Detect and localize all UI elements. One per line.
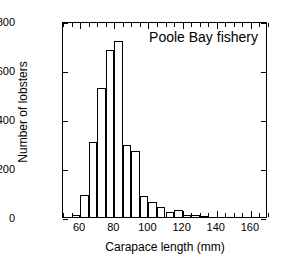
x-axis-tick — [80, 211, 81, 217]
x-axis-tick — [80, 23, 81, 29]
x-axis-tick — [131, 23, 132, 27]
x-axis-tick — [97, 213, 98, 217]
x-axis-tick — [234, 213, 235, 217]
y-axis-tick-label: 600 — [0, 65, 15, 77]
x-axis-tick — [114, 211, 115, 217]
histogram-bar — [183, 215, 192, 217]
y-axis-tick — [261, 23, 266, 24]
y-axis-tick — [63, 72, 68, 73]
y-axis-tick — [261, 219, 266, 220]
x-axis-tick — [148, 211, 149, 217]
x-axis-tick — [131, 213, 132, 217]
y-axis-tick — [63, 23, 68, 24]
x-axis-tick — [157, 213, 158, 217]
histogram-figure: Number of lobsters Poole Bay fishery Car… — [0, 0, 285, 263]
histogram-bar — [72, 215, 81, 217]
histogram-bar — [97, 88, 106, 217]
x-axis-tick — [89, 213, 90, 217]
histogram-bar — [89, 142, 98, 217]
x-axis-tick — [191, 23, 192, 27]
x-axis-tick — [234, 23, 235, 27]
x-axis-tick — [217, 23, 218, 29]
x-axis-tick — [268, 23, 269, 27]
x-axis-tick — [72, 23, 73, 27]
plot-area: Poole Bay fishery — [62, 22, 267, 218]
x-axis-tick — [140, 23, 141, 27]
y-axis-tick-label: 0 — [9, 212, 15, 224]
x-axis-tick — [148, 23, 149, 29]
x-axis-tick — [268, 213, 269, 217]
x-axis-tick — [208, 213, 209, 217]
x-axis-tick — [251, 211, 252, 217]
x-axis-tick — [251, 23, 252, 29]
y-axis-tick — [261, 72, 266, 73]
histogram-bar — [106, 50, 115, 217]
x-axis-tick — [200, 23, 201, 27]
y-axis-tick-label: 800 — [0, 16, 15, 28]
histogram-bar — [131, 151, 140, 217]
histogram-bar — [114, 41, 123, 217]
x-axis-tick — [225, 23, 226, 27]
x-axis-tick-label: 80 — [107, 221, 119, 233]
x-axis-tick-label: 140 — [207, 221, 225, 233]
histogram-bar — [174, 210, 183, 217]
y-axis-tick — [261, 170, 266, 171]
x-axis-tick — [63, 213, 64, 217]
histogram-bar — [123, 145, 132, 217]
x-axis-tick — [225, 213, 226, 217]
y-axis-tick — [63, 170, 68, 171]
x-axis-tick — [200, 213, 201, 217]
y-axis-label: Number of lobsters — [16, 27, 30, 197]
x-axis-tick — [183, 23, 184, 29]
x-axis-tick — [72, 213, 73, 217]
y-axis-tick-label: 400 — [0, 114, 15, 126]
histogram-bar — [148, 202, 157, 217]
x-axis-tick-label: 100 — [138, 221, 156, 233]
x-axis-label: Carapace length (mm) — [62, 240, 268, 254]
x-axis-tick — [166, 213, 167, 217]
x-axis-tick — [208, 23, 209, 27]
x-axis-tick-label: 160 — [241, 221, 259, 233]
y-axis-tick-label: 200 — [0, 163, 15, 175]
y-axis-tick — [63, 121, 68, 122]
x-axis-tick — [97, 23, 98, 27]
x-axis-tick — [140, 213, 141, 217]
y-axis-tick — [261, 121, 266, 122]
x-axis-tick — [123, 213, 124, 217]
histogram-bars — [63, 23, 266, 217]
x-axis-tick — [217, 211, 218, 217]
x-axis-tick — [106, 23, 107, 27]
histogram-bar — [191, 215, 200, 217]
chart-title: Poole Bay fishery — [149, 29, 258, 45]
histogram-bar — [140, 196, 149, 217]
x-axis-tick — [157, 23, 158, 27]
x-axis-tick — [166, 23, 167, 27]
x-axis-tick — [174, 213, 175, 217]
x-axis-tick-label: 60 — [73, 221, 85, 233]
x-axis-tick — [242, 213, 243, 217]
x-axis-tick — [259, 213, 260, 217]
x-axis-tick — [123, 23, 124, 27]
x-axis-tick — [191, 213, 192, 217]
histogram-bar — [80, 195, 89, 217]
x-axis-tick — [114, 23, 115, 29]
x-axis-tick — [106, 213, 107, 217]
x-axis-tick — [242, 23, 243, 27]
x-axis-tick — [183, 211, 184, 217]
x-axis-tick — [174, 23, 175, 27]
histogram-bar — [166, 212, 175, 217]
x-axis-tick — [89, 23, 90, 27]
y-axis-tick — [63, 219, 68, 220]
histogram-bar — [157, 207, 166, 217]
histogram-bar — [200, 216, 209, 217]
x-axis-tick-label: 120 — [172, 221, 190, 233]
